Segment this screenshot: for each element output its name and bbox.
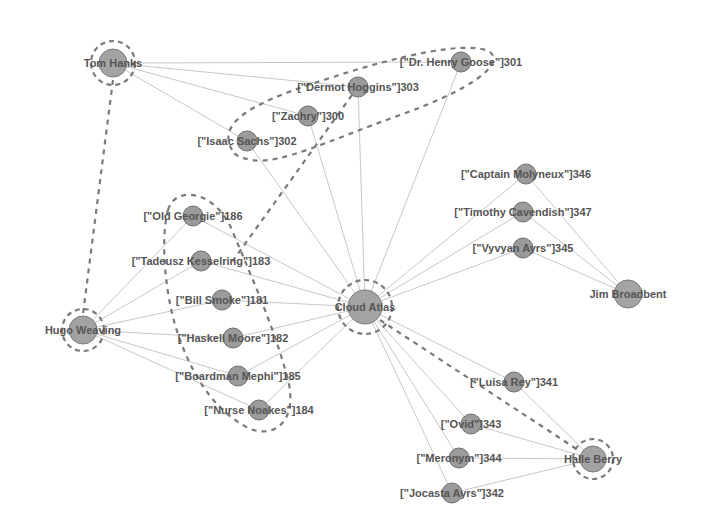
- node-boardman-mephi[interactable]: ["Boardman Mephi"]185: [175, 366, 300, 386]
- edges: [83, 62, 628, 493]
- node-jim-broadbent[interactable]: Jim Broadbent: [589, 280, 666, 308]
- node-haskell-moore[interactable]: ["Haskell Moore"]182: [178, 328, 289, 348]
- node-label: ["Old Georgie"]186: [143, 210, 242, 222]
- node-label: ["Zachry"]300: [272, 110, 344, 122]
- node-label: ["Nurse Noakes"]184: [204, 404, 314, 416]
- node-label: Tom Hanks: [84, 57, 142, 69]
- node-label: ["Tadeusz Kesselring"]183: [132, 255, 271, 267]
- node-ovid[interactable]: ["Ovid"]343: [441, 414, 502, 434]
- node-label: Cloud Atlas: [335, 301, 396, 313]
- node-old-georgie[interactable]: ["Old Georgie"]186: [143, 206, 242, 226]
- node-meronym[interactable]: ["Meronym"]344: [416, 448, 502, 468]
- node-captain-molyneux[interactable]: ["Captain Molyneux"]346: [461, 164, 591, 184]
- node-label: ["Haskell Moore"]182: [178, 332, 289, 344]
- node-label: ["Boardman Mephi"]185: [175, 370, 300, 382]
- node-jocasta-ayrs[interactable]: ["Jocasta Ayrs"]342: [400, 483, 504, 503]
- node-label: ["Captain Molyneux"]346: [461, 168, 591, 180]
- node-timothy-cavendish[interactable]: ["Timothy Cavendish"]347: [454, 202, 591, 222]
- node-nurse-noakes[interactable]: ["Nurse Noakes"]184: [204, 400, 314, 420]
- node-isaac-sachs[interactable]: ["Isaac Sachs"]302: [197, 131, 296, 151]
- node-label: ["Isaac Sachs"]302: [197, 135, 296, 147]
- node-label: ["Ovid"]343: [441, 418, 502, 430]
- node-label: ["Dr. Henry Goose"]301: [400, 56, 522, 68]
- meta-edge-tom-hugo: [83, 80, 113, 314]
- node-dr-henry-goose[interactable]: ["Dr. Henry Goose"]301: [400, 52, 522, 72]
- node-hugo-weaving[interactable]: Hugo Weaving: [45, 316, 121, 344]
- node-label: Jim Broadbent: [589, 288, 666, 300]
- node-label: ["Luisa Rey"]341: [470, 376, 558, 388]
- node-label: ["Timothy Cavendish"]347: [454, 206, 591, 218]
- network-graph: Tom Hanks Hugo Weaving Cloud Atlas Jim B…: [0, 0, 704, 531]
- node-label: ["Bill Smoke"]181: [176, 294, 268, 306]
- node-vyvyan-ayrs[interactable]: ["Vyvyan Ayrs"]345: [473, 238, 574, 258]
- node-label: Hugo Weaving: [45, 324, 121, 336]
- node-dermot-hoggins[interactable]: ["Dermot Hoggins"]303: [297, 77, 419, 97]
- node-label: ["Meronym"]344: [416, 452, 502, 464]
- node-label: Halle Berry: [564, 453, 623, 465]
- node-halle-berry[interactable]: Halle Berry: [564, 446, 623, 472]
- node-tadeusz-kesselring[interactable]: ["Tadeusz Kesselring"]183: [132, 251, 271, 271]
- node-label: ["Vyvyan Ayrs"]345: [473, 242, 574, 254]
- node-label: ["Dermot Hoggins"]303: [297, 81, 419, 93]
- node-label: ["Jocasta Ayrs"]342: [400, 487, 504, 499]
